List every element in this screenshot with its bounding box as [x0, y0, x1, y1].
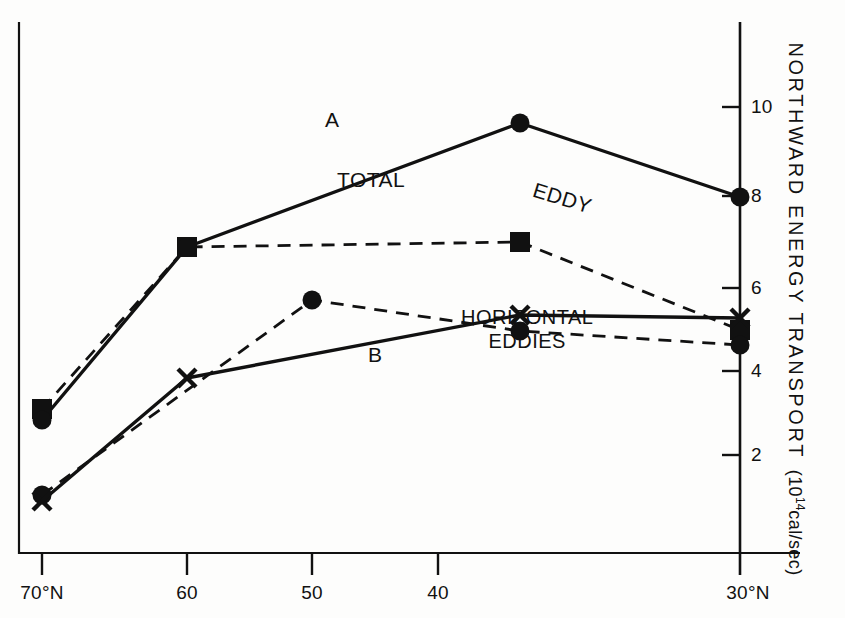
y-axis-units-label: cal/sec: [785, 510, 805, 569]
x-axis-ticks: [42, 553, 438, 575]
x-tick-label-40: 40: [427, 582, 449, 604]
x-tick-label-50: 50: [301, 582, 323, 604]
y-axis-units-exponent: 14: [793, 497, 807, 510]
series-a-markers: [33, 114, 750, 430]
y-tick-label-6: 6: [751, 277, 762, 299]
curve-label-a: A: [325, 108, 340, 132]
curve-label-horizontal-eddies: HORIZONTAL EDDIES: [461, 306, 593, 353]
y-axis-units-suffix: ): [785, 569, 805, 575]
curve-label-b: B: [368, 343, 383, 367]
x-tick-label-60: 60: [176, 582, 198, 604]
y-tick-label-10: 10: [751, 96, 773, 118]
series-horizontal-eddies-markers: [33, 291, 750, 505]
curve-label-horizontal-eddies-line1: HORIZONTAL: [461, 306, 593, 330]
y-tick-label-2: 2: [751, 444, 762, 466]
x-tick-label-70n: 70°N: [20, 582, 64, 604]
series-horizontal-eddies-line: [42, 300, 740, 495]
series-total-markers: [32, 232, 750, 419]
series-b-line: [42, 315, 740, 501]
y-tick-label-8: 8: [751, 185, 762, 207]
curve-label-horizontal-eddies-line2: EDDIES: [461, 330, 593, 354]
y-axis-ticks: [722, 107, 740, 455]
x-tick-label-30n: 30°N: [726, 582, 770, 604]
y-axis-title-main: NORTHWARD ENERGY TRANSPORT: [785, 42, 807, 459]
y-axis-units-prefix: (10: [785, 470, 805, 497]
y-axis-title: NORTHWARD ENERGY TRANSPORT (1014cal/sec): [784, 42, 807, 575]
curve-label-total: TOTAL: [337, 168, 405, 192]
y-axis-title-units: (1014cal/sec): [785, 459, 805, 576]
chart-figure: 70°N 60 50 40 30°N 2 4 6 8 10 A B TOTAL …: [0, 0, 845, 618]
chart-plot-area: [0, 0, 845, 618]
series-b-markers: [33, 306, 749, 510]
y-tick-label-4: 4: [751, 360, 762, 382]
series-total-line: [42, 242, 740, 409]
